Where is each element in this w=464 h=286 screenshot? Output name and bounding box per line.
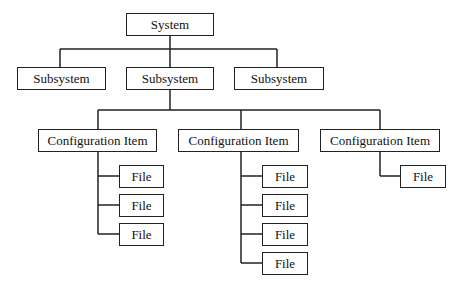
configuration-item-node-3: Configuration Item	[320, 129, 440, 152]
system-node: System	[126, 13, 214, 36]
subsystem-node-1: Subsystem	[17, 67, 106, 90]
file-node: File	[262, 223, 308, 246]
subsystem-node-2: Subsystem	[126, 67, 214, 90]
file-node: File	[262, 165, 308, 188]
file-node: File	[119, 223, 164, 246]
file-node: File	[400, 165, 446, 188]
file-node: File	[119, 194, 164, 217]
file-node: File	[262, 252, 308, 275]
configuration-item-node-2: Configuration Item	[178, 129, 299, 152]
file-node: File	[119, 165, 164, 188]
configuration-item-node-1: Configuration Item	[38, 129, 157, 152]
file-node: File	[262, 194, 308, 217]
subsystem-node-3: Subsystem	[234, 67, 324, 90]
